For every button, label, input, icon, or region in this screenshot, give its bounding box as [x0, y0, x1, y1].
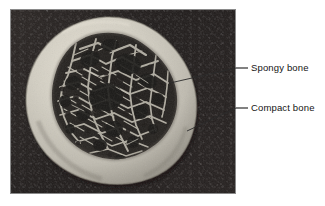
callout-label-compact-bone: Compact bone [251, 102, 315, 113]
figure-root: Spongy bone Compact bone [0, 0, 325, 206]
bone-cross-section-photograph [10, 9, 236, 194]
bone-specimen-illustration [10, 9, 236, 194]
callout-label-spongy-bone: Spongy bone [251, 62, 309, 73]
